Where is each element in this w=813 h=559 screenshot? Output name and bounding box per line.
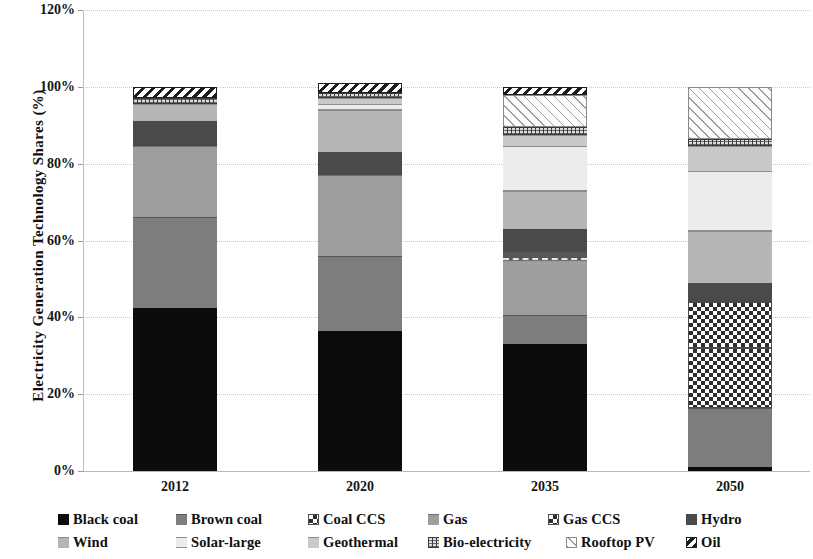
legend-label: Coal CCS [323,511,385,528]
legend-swatch-gas-ccs-icon [548,514,559,525]
legend-row: WindSolar-largeGeothermalBio-electricity… [58,531,798,554]
legend-label: Rooftop PV [581,534,655,551]
gridline [83,471,810,472]
bar-segment[interactable] [318,93,402,99]
legend-label: Oil [701,534,721,551]
x-axis-tick-label-2020: 2020 [290,479,430,495]
legend-item-gas[interactable]: Gas [428,511,467,528]
bar-segment[interactable] [688,348,772,408]
bar-segment[interactable] [688,302,772,348]
bar-segment[interactable] [318,175,402,256]
y-axis-tick-label: 40% [47,309,75,325]
legend-swatch-brown-coal-icon [176,514,187,525]
plot-area: 120%100%80%60%40%20%0% [83,10,810,471]
legend-label: Gas CCS [563,511,621,528]
legend-label: Bio-electricity [443,534,531,551]
x-axis-tick-label-2035: 2035 [475,479,615,495]
y-axis-tick-mark [78,471,83,472]
y-axis-title: Electricity Generation Technology Shares… [30,56,47,436]
y-axis-tick-label: 60% [47,233,75,249]
bar-segment[interactable] [503,315,587,344]
legend-item-geothermal[interactable]: Geothermal [308,534,398,551]
legend-label: Black coal [73,511,138,528]
bar-segment[interactable] [688,408,772,468]
legend-item-bio-electricity[interactable]: Bio-electricity [428,534,531,551]
bar-segment[interactable] [503,344,587,471]
bar-column-2020[interactable] [318,10,402,471]
legend-label: Geothermal [323,534,398,551]
bar-segment[interactable] [133,217,217,307]
bar-segment[interactable] [503,146,587,190]
bar-segment[interactable] [318,104,402,110]
chart-legend: Black coalBrown coalCoal CCSGasGas CCSHy… [58,508,798,554]
legend-swatch-gas-icon [428,514,439,525]
bar-segment[interactable] [503,260,587,316]
bar-segment[interactable] [503,191,587,229]
legend-swatch-coal-ccs-icon [308,514,319,525]
legend-label: Hydro [701,511,742,528]
y-axis-tick-mark [78,164,83,165]
bar-segment[interactable] [133,87,217,99]
y-axis-tick-label: 20% [47,386,75,402]
bar-segment[interactable] [503,95,587,128]
bar-segment[interactable] [688,467,772,471]
bar-segment[interactable] [503,229,587,252]
bar-column-2012[interactable] [133,10,217,471]
legend-label: Solar-large [191,534,261,551]
legend-swatch-solar-large-icon [176,537,187,548]
bar-segment[interactable] [318,83,402,93]
legend-swatch-geothermal-icon [308,537,319,548]
bar-segment[interactable] [688,146,772,171]
legend-item-solar-large[interactable]: Solar-large [176,534,261,551]
legend-label: Gas [443,511,467,528]
legend-item-gas-ccs[interactable]: Gas CCS [548,511,621,528]
legend-swatch-hydro-icon [686,514,697,525]
legend-item-brown-coal[interactable]: Brown coal [176,511,262,528]
legend-item-rooftop-pv[interactable]: Rooftop PV [566,534,655,551]
y-axis-tick-mark [78,87,83,88]
bar-segment[interactable] [133,308,217,471]
bar-segment[interactable] [503,127,587,135]
stacked-bar-chart: Electricity Generation Technology Shares… [0,0,813,559]
x-axis-tick-label-2012: 2012 [105,479,245,495]
bar-column-2050[interactable] [688,10,772,471]
y-axis-tick-mark [78,10,83,11]
legend-row: Black coalBrown coalCoal CCSGasGas CCSHy… [58,508,798,531]
bar-segment[interactable] [503,252,587,260]
x-axis-tick-label-2050: 2050 [660,479,800,495]
bar-segment[interactable] [503,135,587,147]
legend-item-coal-ccs[interactable]: Coal CCS [308,511,385,528]
legend-item-black-coal[interactable]: Black coal [58,511,138,528]
bar-segment[interactable] [688,87,772,139]
legend-swatch-black-coal-icon [58,514,69,525]
y-axis-tick-label: 0% [54,463,75,479]
legend-swatch-wind-icon [58,537,69,548]
bar-segment[interactable] [688,171,772,231]
legend-label: Wind [73,534,108,551]
y-axis-tick-mark [78,317,83,318]
bar-segment[interactable] [318,110,402,152]
legend-swatch-oil-icon [686,537,697,548]
bar-segment[interactable] [133,98,217,104]
bar-segment[interactable] [688,139,772,147]
bar-segment[interactable] [503,87,587,95]
bar-column-2035[interactable] [503,10,587,471]
y-axis-tick-mark [78,241,83,242]
legend-item-wind[interactable]: Wind [58,534,108,551]
y-axis-tick-label: 80% [47,156,75,172]
bar-segment[interactable] [688,283,772,302]
legend-item-oil[interactable]: Oil [686,534,721,551]
bar-segment[interactable] [133,121,217,146]
bar-segment[interactable] [318,152,402,175]
legend-label: Brown coal [191,511,262,528]
legend-item-hydro[interactable]: Hydro [686,511,742,528]
legend-swatch-bio-electricity-icon [428,537,439,548]
bar-segment[interactable] [318,331,402,471]
bar-segment[interactable] [688,231,772,283]
bar-segment[interactable] [318,256,402,331]
y-axis-tick-label: 100% [40,79,75,95]
bar-segment[interactable] [133,104,217,121]
bar-segment[interactable] [133,146,217,217]
legend-swatch-rooftop-pv-icon [566,537,577,548]
bar-segment[interactable] [318,98,402,104]
